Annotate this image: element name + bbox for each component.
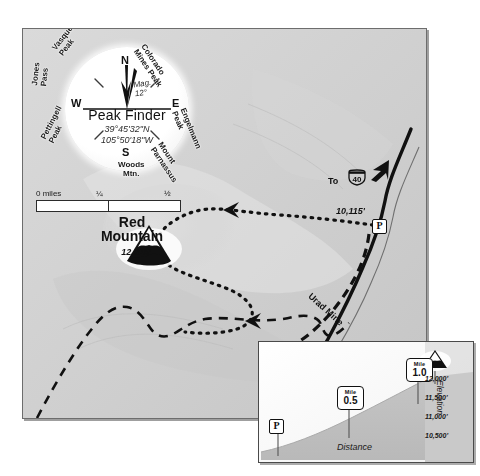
to-highway-label: To (328, 176, 338, 186)
mile-marker-0-5[interactable]: Mile 0.5 (337, 386, 364, 410)
svg-text:40: 40 (353, 175, 362, 184)
peak-label-line2: Mtn. (123, 169, 139, 178)
trailhead-elevation: 10,115' (336, 206, 365, 216)
summit-elevation: 12,315' (101, 247, 171, 257)
summit-name: Red Mountain (93, 215, 171, 243)
compass-south-label: S (122, 146, 129, 158)
distance-axis-label: Distance (337, 442, 372, 452)
parking-marker-map[interactable]: P (372, 219, 387, 234)
scale-segment-1 (37, 201, 109, 211)
scale-label-zero: 0 miles (36, 189, 61, 198)
peak-label-line2: Pass (38, 67, 49, 87)
peak-label-jones-pass: Jones Pass (31, 62, 50, 87)
magnetic-north-value: 12° (134, 88, 147, 99)
scale-label-half: ½ (164, 189, 171, 198)
highway-shield-icon: 40 (347, 169, 367, 186)
elevation-profile-inset[interactable]: P Mile 0.5 Mile 1.0 12,000' 11,500' 11,0… (258, 341, 474, 463)
scale-bar: 0 miles ¼ ½ (36, 189, 181, 212)
peak-label-woods-mtn: Woods Mtn. (118, 161, 145, 178)
scale-segment-2 (109, 201, 180, 211)
road-direction-arrow (367, 160, 391, 182)
map-figure: N S W E Mag. N 12° Peak Finder 39°45'32"… (0, 0, 480, 476)
summit-name-line2: Mountain (101, 228, 163, 244)
scale-label-quarter: ¼ (96, 189, 103, 198)
scale-tick-labels: 0 miles ¼ ½ (36, 189, 181, 200)
elevation-tick-10500: 10,500' (425, 432, 448, 439)
elevation-axis-label: Elevation (435, 380, 445, 415)
longitude-readout: 105°50'18"W (65, 135, 189, 145)
scale-bar-graphic (36, 200, 181, 212)
parking-marker-profile[interactable]: P (269, 419, 284, 434)
latitude-readout: 39°45'32"N (65, 124, 189, 134)
mile-marker-value: 0.5 (338, 396, 363, 406)
compass-north-label: N (121, 54, 129, 66)
